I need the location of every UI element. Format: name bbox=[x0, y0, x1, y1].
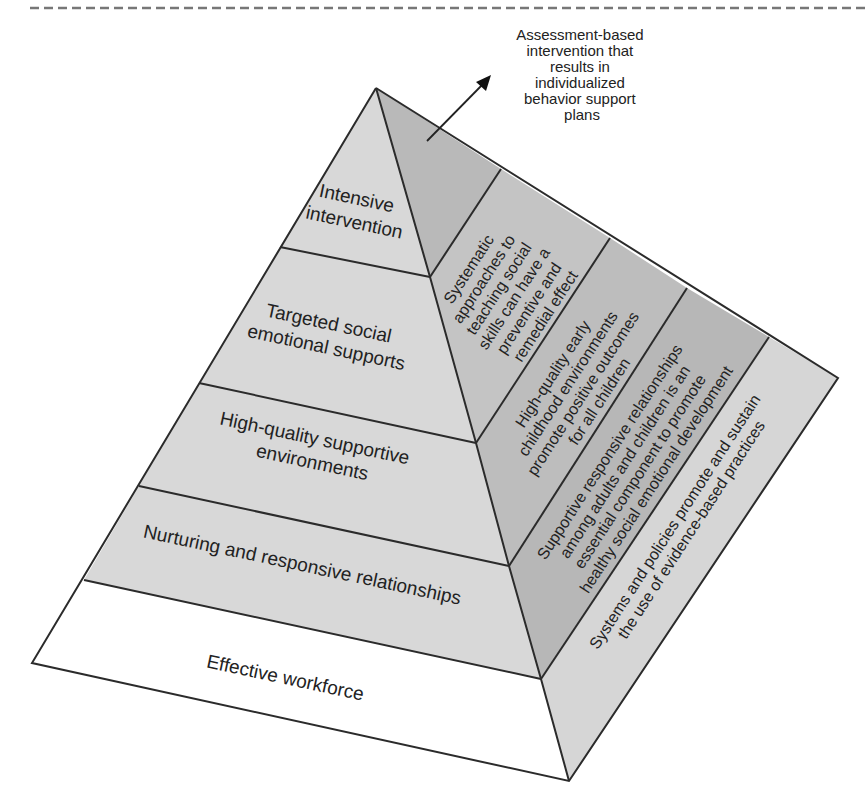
callout-label: Assessment-based intervention that resul… bbox=[516, 26, 648, 123]
callout-arrow bbox=[427, 75, 491, 141]
pyramid-diagram: Assessment-based intervention that resul… bbox=[0, 0, 867, 810]
